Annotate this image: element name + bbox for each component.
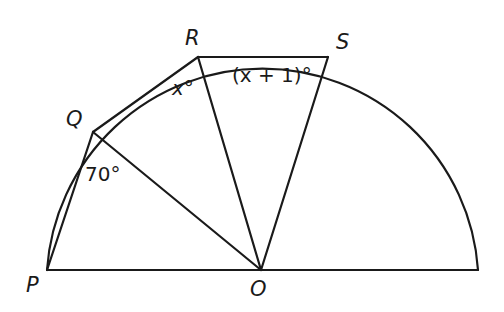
radius-oq	[93, 132, 261, 270]
label-s: S	[336, 30, 349, 54]
angle-label-x: x°	[171, 76, 194, 100]
label-p: P	[26, 273, 39, 297]
chord-pq	[47, 132, 93, 270]
label-q: Q	[66, 107, 83, 131]
angle-label-70: 70°	[85, 162, 120, 186]
radius-os	[261, 57, 328, 270]
label-r: R	[185, 26, 200, 50]
label-o: O	[250, 277, 267, 301]
angle-label-x-plus-1: (x + 1)°	[232, 63, 312, 87]
semicircle-diagram: P O Q R S 70° x° (x + 1)°	[0, 0, 504, 312]
radius-or	[198, 57, 261, 270]
